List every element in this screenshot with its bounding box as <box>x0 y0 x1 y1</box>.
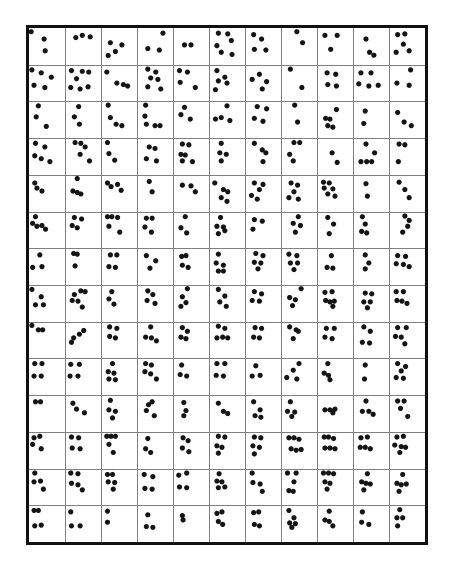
figure-root <box>0 0 454 574</box>
scatter-plot-canvas <box>29 28 425 542</box>
quadrat-frame <box>26 25 428 545</box>
